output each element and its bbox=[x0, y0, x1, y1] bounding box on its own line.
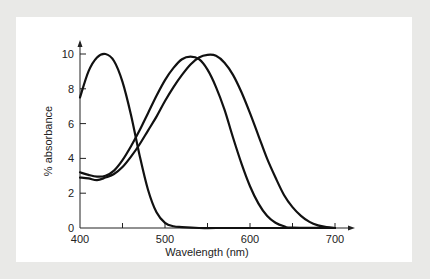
y-tick-label: 10 bbox=[62, 48, 74, 60]
curves bbox=[80, 54, 335, 228]
y-tick-label: 8 bbox=[68, 83, 74, 95]
x-axis-title: Wavelength (nm) bbox=[165, 246, 248, 258]
y-axis-title: % absorbance bbox=[42, 106, 54, 176]
x-tick-label: 600 bbox=[241, 233, 259, 245]
absorbance-curve-3 bbox=[80, 55, 335, 228]
absorbance-chart: 0246810400500600700 Wavelength (nm) % ab… bbox=[0, 0, 430, 279]
y-axis-arrow-icon bbox=[78, 40, 83, 47]
y-tick-label: 4 bbox=[68, 152, 74, 164]
y-tick-label: 6 bbox=[68, 118, 74, 130]
x-tick-label: 500 bbox=[156, 233, 174, 245]
x-tick-label: 700 bbox=[326, 233, 344, 245]
absorbance-curve-2 bbox=[80, 57, 335, 228]
y-tick-label: 2 bbox=[68, 187, 74, 199]
x-axis-arrow-icon bbox=[348, 226, 355, 231]
absorbance-curve-1 bbox=[80, 54, 335, 228]
x-tick-label: 400 bbox=[71, 233, 89, 245]
